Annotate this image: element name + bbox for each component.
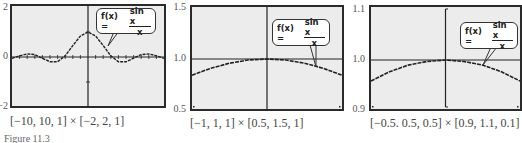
ytick-mid: 1.0 (343, 53, 365, 64)
fraction: sin x x (492, 20, 513, 51)
graph-panel-1: 2 0 −2 (0, 0, 170, 143)
denominator: x (500, 41, 505, 51)
ytick-top: 2 (0, 1, 8, 12)
function-callout: f(x) = sin x x (96, 8, 156, 34)
fraction: sin x x (304, 17, 325, 48)
graph-panel-2: 1.5 1.0 0.5 f(x) = sin x x [−1, 1, 1] × … (170, 0, 350, 143)
ytick-bottom: 0.9 (343, 103, 365, 114)
fraction: sin x x (129, 6, 151, 37)
function-callout: f(x) = sin x x (460, 22, 518, 49)
function-label: f(x) = (101, 11, 126, 31)
ytick-mid: 1.0 (164, 52, 186, 63)
denominator: x (137, 27, 142, 37)
denominator: x (312, 38, 317, 48)
function-callout: f(x) = sin x x (272, 19, 330, 46)
function-label: f(x) = (277, 23, 301, 43)
numerator: sin x (129, 6, 151, 27)
graph-panel-3: 1.1 1.0 0.9 f(x) = sin x x [−0.5. 0.5, 0… (340, 0, 522, 143)
figure-label: Figure 11.3 (4, 133, 50, 143)
numerator: sin x (492, 20, 513, 41)
window-caption: [−1, 1, 1] × [0.5, 1.5, 1] (190, 116, 304, 131)
function-label: f(x) = (465, 26, 489, 46)
numerator: sin x (304, 17, 325, 38)
window-caption: [−0.5. 0.5, 0.5] × [0.9, 1.1, 0.1] (370, 116, 520, 131)
ytick-bottom: −2 (0, 100, 8, 111)
ytick-top: 1.5 (164, 1, 186, 12)
window-caption: [−10, 10, 1] × [−2, 2, 1] (10, 114, 124, 129)
ytick-bottom: 0.5 (164, 103, 186, 114)
ytick-mid: 0 (0, 50, 8, 61)
ytick-top: 1.1 (343, 3, 365, 14)
